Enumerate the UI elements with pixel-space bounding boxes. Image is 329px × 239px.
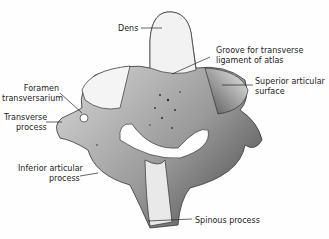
label-groove-line1: Groove for transverse bbox=[216, 46, 303, 55]
label-spinous-process: Spinous process bbox=[195, 216, 260, 225]
foramen-transversarium-hole bbox=[80, 114, 88, 122]
axis-vertebra-drawing bbox=[0, 0, 329, 239]
label-groove-line2: ligament of atlas bbox=[216, 56, 283, 65]
label-inferior-line1: Inferior articular bbox=[18, 164, 83, 173]
label-transverse-line2: process bbox=[16, 123, 47, 132]
label-inferior-line2: process bbox=[49, 174, 80, 183]
label-transverse-line1: Transverse bbox=[4, 113, 47, 122]
anatomy-figure: Dens Groove for transverse ligament of a… bbox=[0, 0, 329, 239]
label-dens: Dens bbox=[118, 24, 138, 33]
dens-shape bbox=[150, 12, 196, 74]
label-foramen-line2: transversarium bbox=[0, 94, 63, 103]
label-foramen-line1: Foramen bbox=[0, 84, 59, 93]
label-superior-line2: surface bbox=[255, 87, 285, 96]
label-superior-line1: Superior articular bbox=[255, 77, 325, 86]
